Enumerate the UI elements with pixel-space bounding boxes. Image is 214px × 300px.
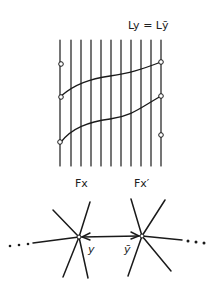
left-ellipsis-icon: [9, 243, 30, 248]
diagram-canvas: Ly = Lȳ Fx Fx′ y ȳ: [0, 0, 214, 300]
left-star-node: [33, 202, 90, 278]
double-arrow: [82, 232, 139, 240]
node-label-ybar: ȳ: [123, 243, 131, 256]
fiber-label-right: Fx′: [134, 177, 150, 190]
left-node-point: [77, 235, 81, 239]
right-node-point: [140, 234, 144, 238]
equation-label: Ly = Lȳ: [128, 19, 169, 32]
right-ellipsis-icon: [187, 240, 206, 245]
vertical-lines: [60, 40, 161, 166]
fiber-label-left: Fx: [75, 177, 88, 190]
node-label-y: y: [87, 243, 95, 256]
